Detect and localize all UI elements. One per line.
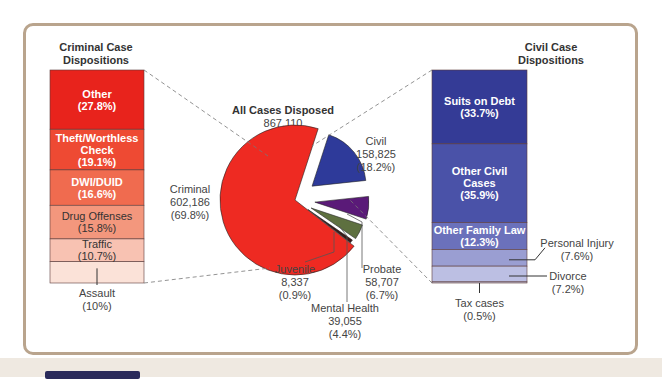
pie-label-criminal-value: 602,186 xyxy=(170,196,210,208)
civil-label-2-line-1: (12.3%) xyxy=(460,236,499,248)
criminal-label-3-line-1: (15.8%) xyxy=(78,222,117,234)
pie-label-mental-health-name: Mental Health xyxy=(311,302,379,314)
civil-label-1-line-2: (35.9%) xyxy=(460,189,499,201)
civil-label-3-line-1: (7.6%) xyxy=(561,250,593,262)
pie-label-mental-health-value: 39,055 xyxy=(328,315,362,327)
criminal-label-0-line-1: (27.8%) xyxy=(78,100,117,112)
criminal-label-5-line-0: Assault xyxy=(79,287,115,299)
civil-callout-diag-3 xyxy=(535,248,545,260)
pie-label-probate-value: 58,707 xyxy=(365,276,399,288)
civil-title-line1: Civil Case xyxy=(525,41,578,53)
criminal-label-1-line-1: Check xyxy=(80,144,114,156)
criminal-label-5-line-1: (10%) xyxy=(82,300,111,312)
pie-label-civil-name: Civil xyxy=(366,135,387,147)
criminal-label-3-line-0: Drug Offenses xyxy=(62,210,133,222)
criminal-label-2-line-1: (16.6%) xyxy=(78,188,117,200)
civil-label-1-line-1: Cases xyxy=(463,177,495,189)
criminal-connector-bottom xyxy=(144,268,270,283)
civil-label-3-line-0: Personal Injury xyxy=(540,237,614,249)
pie-label-juvenile-name: Juvenile xyxy=(275,263,315,275)
civil-label-1-line-0: Other Civil xyxy=(452,165,508,177)
criminal-label-4-line-0: Traffic xyxy=(82,238,112,250)
civil-title-line2: Dispositions xyxy=(518,54,584,66)
pie-label-probate-name: Probate xyxy=(363,263,402,275)
civil-bar-segment-4 xyxy=(432,266,527,282)
civil-label-5-line-1: (0.5%) xyxy=(463,310,495,322)
civil-label-0-line-1: (33.7%) xyxy=(460,107,499,119)
criminal-label-2-line-0: DWI/DUID xyxy=(71,176,122,188)
criminal-label-1-line-0: Theft/Worthless xyxy=(56,132,139,144)
civil-bar-segment-5 xyxy=(432,282,527,283)
civil-bar-segment-3 xyxy=(432,249,527,266)
pie-label-juvenile-pct: (0.9%) xyxy=(279,289,311,301)
civil-label-2-line-0: Other Family Law xyxy=(434,224,526,236)
pie-label-criminal-name: Criminal xyxy=(170,183,210,195)
civil-label-0-line-0: Suits on Debt xyxy=(444,95,515,107)
criminal-title-line1: Criminal Case xyxy=(59,41,132,53)
pie-label-civil-value: 158,825 xyxy=(356,148,396,160)
pie-label-mental-health-pct: (4.4%) xyxy=(329,328,361,340)
criminal-label-4-line-1: (10.7%) xyxy=(78,250,117,262)
pie-label-juvenile-value: 8,337 xyxy=(281,276,309,288)
criminal-label-1-line-2: (19.1%) xyxy=(78,156,117,168)
criminal-title-line2: Dispositions xyxy=(63,54,129,66)
pie-label-criminal-pct: (69.8%) xyxy=(171,209,210,221)
criminal-label-0-line-0: Other xyxy=(82,88,112,100)
civil-label-5-line-0: Tax cases xyxy=(455,297,504,309)
pie-label-civil-pct: (18.2%) xyxy=(357,161,396,173)
civil-label-4-line-0: Divorce xyxy=(549,270,586,282)
civil-label-4-line-1: (7.2%) xyxy=(552,283,584,295)
pie-label-probate-pct: (6.7%) xyxy=(366,289,398,301)
pie-title: All Cases Disposed xyxy=(232,104,334,116)
